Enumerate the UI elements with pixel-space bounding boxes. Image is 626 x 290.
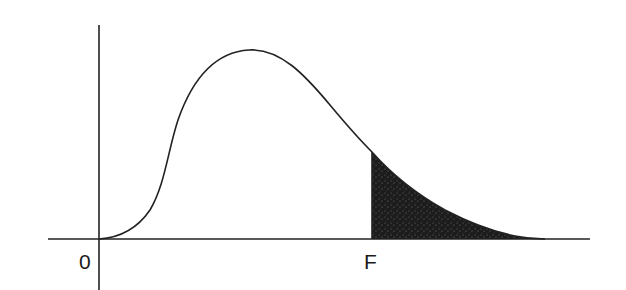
critical-value-label: F <box>364 251 377 272</box>
density-curve <box>99 50 545 239</box>
origin-label: 0 <box>79 251 91 272</box>
f-distribution-diagram <box>0 0 626 290</box>
shaded-tail-region <box>372 152 540 239</box>
